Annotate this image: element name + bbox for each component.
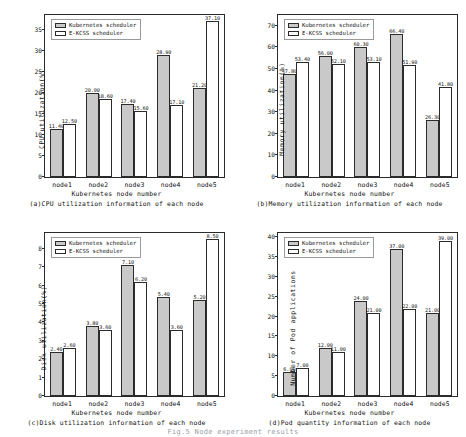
legend-item-k8s: Kubernetes scheduler (288, 240, 369, 247)
x-tick-label: node5 (197, 400, 217, 408)
bar-value-label: 3.60 (171, 324, 183, 330)
x-tick-labels-d: node1node2node3node4node5 (277, 397, 458, 408)
x-tick-labels-a: node1node2node3node4node5 (44, 178, 225, 189)
bar-k8s: 5.40 (157, 297, 170, 396)
bar-ekcss: 12.50 (63, 124, 76, 177)
x-tick-label: node4 (394, 400, 414, 408)
y-tick-label: 1 (38, 375, 42, 381)
panel-caption-b: (b)Memory utilization information of eac… (233, 200, 466, 208)
figure-bottom-caption: Fig.5 Node experiment results (0, 428, 466, 437)
bar-ekcss: 8.50 (206, 239, 219, 396)
bar-value-label: 52.10 (331, 58, 346, 64)
bar-ekcss: 11.00 (332, 352, 345, 396)
y-tick-label: 10 (268, 152, 275, 158)
bar-value-label: 3.60 (99, 324, 111, 330)
y-tick-label: 0 (271, 393, 275, 399)
bar-k8s: 12.00 (319, 348, 332, 396)
bar-value-label: 6.20 (135, 276, 147, 282)
bar-value-label: 53.40 (295, 56, 310, 62)
bar-value-label: 21.20 (192, 82, 207, 88)
bar-value-label: 24.00 (353, 295, 368, 301)
y-tick-label: 35 (35, 27, 42, 33)
legend-swatch-k8s (288, 23, 299, 28)
bar-ekcss: 22.00 (403, 309, 416, 396)
bar-group: 5.403.60 (157, 233, 183, 396)
bar-value-label: 53.10 (366, 56, 381, 62)
bar-k8s: 21.20 (193, 88, 206, 177)
legend-c: Kubernetes schedulerE-KCSS scheduler (51, 237, 141, 258)
legend-swatch-ekcss (288, 249, 299, 254)
x-axis-label-a: Kubernetes node number (0, 190, 233, 198)
legend-label: Kubernetes scheduler (302, 22, 369, 29)
figure-panel-grid: 0510152025303511.4012.5020.0018.6017.401… (0, 0, 466, 437)
bar-k8s: 7.10 (121, 265, 134, 396)
plot-area-b: 01020304050607047.8053.4056.0052.1060.30… (277, 14, 458, 178)
x-tick-label: node4 (394, 181, 414, 189)
bar-value-label: 22.00 (402, 303, 417, 309)
bar-ekcss: 52.10 (332, 64, 345, 177)
y-tick-label: 35 (268, 254, 275, 260)
bar-group: 21.2037.10 (193, 15, 219, 177)
bar-value-label: 37.00 (389, 243, 404, 249)
y-axis-label-a: CPU utilization(%) (38, 69, 46, 149)
x-tick-label: node1 (52, 181, 72, 189)
bar-group: 21.0039.00 (426, 233, 452, 396)
legend-label: Kubernetes scheduler (69, 240, 136, 247)
bar-k8s: 37.00 (390, 249, 403, 396)
chart-panel-d: 05101520253035406.007.0012.0011.0024.002… (233, 218, 466, 437)
y-tick-label: 20 (268, 314, 275, 320)
chart-panel-c: 0123456782.402.603.803.607.106.205.403.6… (0, 218, 233, 437)
bar-ekcss: 3.60 (170, 330, 183, 396)
bar-ekcss: 2.60 (63, 348, 76, 396)
bar-value-label: 26.30 (425, 114, 440, 120)
bar-value-label: 60.30 (353, 41, 368, 47)
x-tick-label: node2 (88, 181, 108, 189)
legend-item-k8s: Kubernetes scheduler (55, 22, 136, 29)
x-tick-label: node3 (358, 400, 378, 408)
bar-k8s: 2.40 (50, 352, 63, 396)
x-tick-label: node2 (321, 400, 341, 408)
legend-label: Kubernetes scheduler (69, 22, 136, 29)
bar-value-label: 39.00 (438, 235, 453, 241)
panel-caption-c: (c)Disk utilization information of each … (0, 419, 233, 427)
bar-value-label: 21.00 (425, 307, 440, 313)
legend-label: Kubernetes scheduler (302, 240, 369, 247)
bar-group: 26.3041.80 (426, 15, 452, 177)
y-tick-label: 50 (268, 66, 275, 72)
bar-ekcss: 53.40 (296, 62, 309, 177)
bar-value-label: 11.00 (331, 346, 346, 352)
bar-group: 5.208.50 (193, 233, 219, 396)
y-axis-label-c: Disk utilization(%) (40, 285, 48, 370)
bar-ekcss: 39.00 (439, 241, 452, 396)
x-tick-label: node3 (125, 400, 145, 408)
bar-k8s: 60.30 (354, 47, 367, 177)
y-tick-label: 60 (268, 44, 275, 50)
bar-k8s: 66.40 (390, 34, 403, 177)
bar-value-label: 5.20 (194, 294, 206, 300)
bar-value-label: 17.40 (120, 98, 135, 104)
x-tick-labels-b: node1node2node3node4node5 (277, 178, 458, 189)
y-tick-label: 30 (35, 48, 42, 54)
x-tick-label: node3 (125, 181, 145, 189)
bar-group: 37.0022.00 (390, 233, 416, 396)
bar-value-label: 56.00 (318, 50, 333, 56)
legend-item-ekcss: E-KCSS scheduler (55, 248, 136, 255)
bar-k8s: 28.90 (157, 55, 170, 177)
bar-k8s: 17.40 (121, 104, 134, 177)
panel-caption-d: (d)Pod quantity information of each node (233, 419, 466, 427)
legend-label: E-KCSS scheduler (69, 30, 123, 37)
x-axis-label-c: Kubernetes node number (0, 409, 233, 417)
bar-ekcss: 53.10 (367, 62, 380, 177)
legend-label: E-KCSS scheduler (302, 248, 356, 255)
y-tick-label: 0 (38, 393, 42, 399)
plot-area-a: 0510152025303511.4012.5020.0018.6017.401… (44, 14, 225, 178)
y-tick-label: 40 (268, 234, 275, 240)
chart-panel-b: 01020304050607047.8053.4056.0052.1060.30… (233, 0, 466, 218)
x-tick-labels-c: node1node2node3node4node5 (44, 397, 225, 408)
y-tick-label: 0 (38, 174, 42, 180)
plot-area-d: 05101520253035406.007.0012.0011.0024.002… (277, 232, 458, 397)
x-tick-label: node5 (430, 400, 450, 408)
bar-value-label: 21.00 (366, 307, 381, 313)
x-axis-label-d: Kubernetes node number (233, 409, 466, 417)
bar-k8s: 21.00 (426, 313, 439, 396)
